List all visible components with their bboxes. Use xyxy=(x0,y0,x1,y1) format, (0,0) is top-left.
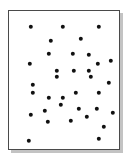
data-point xyxy=(87,69,91,73)
data-point xyxy=(27,139,31,143)
data-point xyxy=(87,53,91,57)
data-point xyxy=(97,25,101,29)
data-point xyxy=(79,37,83,41)
data-point xyxy=(69,119,73,123)
data-point xyxy=(77,107,81,111)
data-point xyxy=(95,107,99,111)
figure-root xyxy=(0,0,131,160)
data-point xyxy=(72,69,76,73)
data-point xyxy=(59,103,63,107)
data-point xyxy=(61,25,65,29)
data-point xyxy=(49,39,53,43)
data-point xyxy=(85,115,89,119)
data-point xyxy=(97,137,101,141)
data-point xyxy=(46,120,50,124)
data-point xyxy=(74,91,78,95)
data-point xyxy=(102,125,106,129)
data-point xyxy=(29,25,33,29)
data-point xyxy=(29,113,33,117)
data-point xyxy=(31,91,35,95)
plot-frame xyxy=(8,10,120,150)
data-point xyxy=(61,96,65,100)
data-point xyxy=(89,75,93,79)
data-point xyxy=(55,75,59,79)
data-point xyxy=(31,83,35,87)
data-point xyxy=(107,81,111,85)
data-point xyxy=(109,59,113,63)
data-point xyxy=(71,52,75,56)
data-point xyxy=(111,111,115,115)
data-point xyxy=(47,52,51,56)
scatter-plot-area xyxy=(9,11,119,149)
data-point xyxy=(28,62,32,66)
data-point xyxy=(96,62,100,66)
data-point xyxy=(47,96,51,100)
data-point xyxy=(55,69,59,73)
data-point xyxy=(97,91,101,95)
data-point xyxy=(43,109,47,113)
